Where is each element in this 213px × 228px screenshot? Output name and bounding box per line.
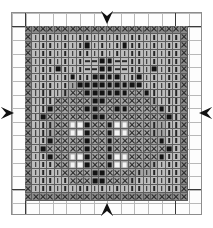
cell-filled bbox=[55, 66, 62, 74]
cell-bar bbox=[114, 42, 121, 50]
cell-bar bbox=[151, 50, 158, 58]
cell-bar bbox=[32, 42, 39, 50]
cell-bar bbox=[47, 74, 54, 82]
cell-filled bbox=[107, 74, 114, 82]
cell-bar bbox=[32, 74, 39, 82]
cell-cross bbox=[77, 90, 84, 98]
cell-cross bbox=[144, 153, 151, 161]
cell-bar bbox=[144, 74, 151, 82]
cell-bar bbox=[40, 169, 47, 177]
cell-bar bbox=[62, 50, 69, 58]
cell-open bbox=[114, 121, 121, 129]
cell-bar bbox=[136, 34, 143, 42]
cell-bar bbox=[32, 50, 39, 58]
cell-bar bbox=[92, 50, 99, 58]
cell-bar bbox=[158, 98, 165, 106]
cell-cross bbox=[69, 169, 76, 177]
cell-bar bbox=[69, 50, 76, 58]
cell-cross bbox=[181, 74, 188, 82]
cell-cross bbox=[84, 177, 91, 185]
cell-bar bbox=[55, 177, 62, 185]
cell-filled bbox=[151, 66, 158, 74]
cell-cross bbox=[129, 161, 136, 169]
cell-bar bbox=[62, 58, 69, 66]
cell-cross bbox=[92, 26, 99, 34]
cell-bar bbox=[32, 106, 39, 114]
cell-cross bbox=[144, 114, 151, 122]
cell-filled bbox=[144, 90, 151, 98]
cell-bar bbox=[158, 82, 165, 90]
cell-bar bbox=[32, 82, 39, 90]
cell-bar bbox=[151, 129, 158, 137]
cell-bar bbox=[166, 121, 173, 129]
cell-cross bbox=[121, 193, 128, 201]
cell-bar bbox=[32, 177, 39, 185]
cell-filled bbox=[92, 114, 99, 122]
cell-bar bbox=[84, 34, 91, 42]
cell-cross bbox=[121, 114, 128, 122]
cell-cross bbox=[129, 129, 136, 137]
cell-cross bbox=[62, 193, 69, 201]
cell-bar bbox=[55, 82, 62, 90]
cell-bar bbox=[40, 74, 47, 82]
cell-bar bbox=[114, 185, 121, 193]
cell-open bbox=[114, 129, 121, 137]
cell-bar bbox=[40, 161, 47, 169]
cell-bar bbox=[40, 34, 47, 42]
center-marker-top-notch bbox=[101, 11, 113, 16]
cell-bar bbox=[114, 50, 121, 58]
cell-bar bbox=[158, 90, 165, 98]
cell-cross bbox=[121, 26, 128, 34]
cell-cross bbox=[25, 145, 32, 153]
cell-bar bbox=[166, 66, 173, 74]
cell-cross bbox=[25, 106, 32, 114]
cell-cross bbox=[129, 169, 136, 177]
cell-cross bbox=[144, 26, 151, 34]
cell-cross bbox=[77, 26, 84, 34]
cell-cross bbox=[173, 193, 180, 201]
cell-bar bbox=[32, 90, 39, 98]
cell-cross bbox=[99, 161, 106, 169]
cell-bar bbox=[136, 42, 143, 50]
cell-bar bbox=[107, 42, 114, 50]
cell-cross bbox=[181, 50, 188, 58]
cell-cross bbox=[92, 161, 99, 169]
cell-cross bbox=[69, 98, 76, 106]
cell-bar bbox=[136, 169, 143, 177]
cell-cross bbox=[25, 137, 32, 145]
cell-filled bbox=[69, 74, 76, 82]
cell-cross bbox=[114, 177, 121, 185]
cell-bar bbox=[47, 98, 54, 106]
cell-dash bbox=[84, 58, 91, 66]
cell-bar bbox=[129, 177, 136, 185]
cell-bar bbox=[173, 129, 180, 137]
cell-cross bbox=[25, 58, 32, 66]
cell-bar bbox=[32, 137, 39, 145]
cell-bar bbox=[77, 58, 84, 66]
cell-cross bbox=[129, 121, 136, 129]
cell-bar bbox=[158, 58, 165, 66]
cell-bar bbox=[32, 34, 39, 42]
cell-bar bbox=[77, 34, 84, 42]
cell-filled bbox=[107, 58, 114, 66]
cell-cross bbox=[25, 161, 32, 169]
cell-bar bbox=[151, 121, 158, 129]
cell-bar bbox=[158, 74, 165, 82]
cell-cross bbox=[47, 145, 54, 153]
cell-bar bbox=[166, 106, 173, 114]
cell-filled bbox=[107, 153, 114, 161]
cell-bar bbox=[92, 42, 99, 50]
cell-cross bbox=[99, 193, 106, 201]
cell-bar bbox=[47, 58, 54, 66]
cell-cross bbox=[151, 137, 158, 145]
cell-bar bbox=[107, 34, 114, 42]
cell-bar bbox=[173, 42, 180, 50]
cell-cross bbox=[99, 137, 106, 145]
cell-cross bbox=[151, 145, 158, 153]
cell-bar bbox=[40, 90, 47, 98]
cell-open bbox=[121, 161, 128, 169]
cell-dash bbox=[92, 66, 99, 74]
cell-bar bbox=[62, 74, 69, 82]
cell-cross bbox=[129, 26, 136, 34]
cell-cross bbox=[129, 98, 136, 106]
